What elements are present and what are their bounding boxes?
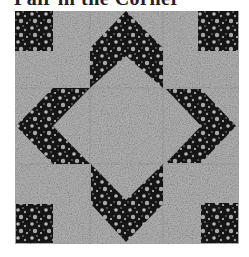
corner-square-top-left bbox=[15, 11, 53, 51]
quilt-block bbox=[15, 11, 239, 244]
corner-square-bottom-right bbox=[201, 203, 238, 243]
page-title: Pair in the Corner bbox=[14, 0, 180, 10]
corner-square-top-right bbox=[198, 11, 238, 51]
corner-square-bottom-left bbox=[16, 204, 53, 243]
